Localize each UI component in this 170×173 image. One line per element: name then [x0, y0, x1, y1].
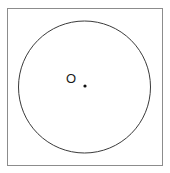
center-label-o: O — [66, 71, 76, 86]
figure-canvas: O — [0, 0, 170, 173]
center-dot — [83, 84, 86, 87]
geometry-diagram: O — [0, 0, 170, 173]
